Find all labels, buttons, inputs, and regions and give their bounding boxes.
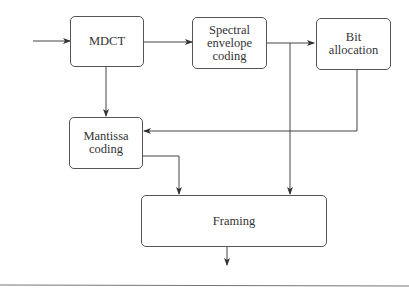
diagram-canvas: MDCT Spectral envelope coding Bit alloca… bbox=[0, 0, 409, 293]
mantissa-to-framing-arrow bbox=[143, 156, 179, 194]
bit-to-mantissa-arrow bbox=[144, 70, 357, 131]
block-framing-label: Framing bbox=[213, 215, 255, 228]
block-spectral-envelope-coding: Spectral envelope coding bbox=[192, 17, 267, 69]
block-mantissa-coding: Mantissa coding bbox=[69, 117, 143, 169]
block-bit-label: Bit allocation bbox=[329, 31, 378, 57]
bottom-rule bbox=[0, 285, 409, 286]
block-framing: Framing bbox=[141, 195, 327, 247]
block-mdct: MDCT bbox=[70, 16, 144, 67]
block-spectral-label: Spectral envelope coding bbox=[207, 24, 252, 63]
block-mantissa-label: Mantissa coding bbox=[83, 130, 128, 156]
block-bit-allocation: Bit allocation bbox=[316, 18, 391, 70]
block-mdct-label: MDCT bbox=[89, 35, 125, 48]
